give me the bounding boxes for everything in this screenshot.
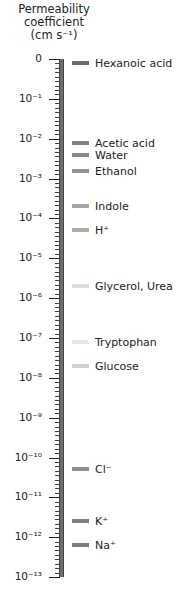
log-axis <box>47 59 67 577</box>
minor-tick <box>55 435 60 436</box>
minor-tick <box>55 125 60 126</box>
major-tick <box>49 577 60 578</box>
minor-tick <box>55 236 60 237</box>
minor-tick <box>55 475 60 476</box>
minor-tick <box>55 365 60 366</box>
marker-label: Tryptophan <box>95 335 157 348</box>
minor-tick <box>55 453 60 454</box>
minor-tick <box>55 267 60 268</box>
data-marker <box>72 467 89 471</box>
minor-tick <box>55 316 60 317</box>
data-marker <box>72 61 89 65</box>
minor-tick <box>55 280 60 281</box>
marker-label: Glycerol, Urea <box>95 280 173 293</box>
minor-tick <box>55 382 60 383</box>
minor-tick <box>55 94 60 95</box>
tick-label: 10⁻⁹ <box>19 411 42 423</box>
axis-bar <box>59 59 64 577</box>
minor-tick <box>55 156 60 157</box>
chart-title: Permeability coefficient (cm s⁻¹) <box>0 3 108 42</box>
title-line-3: (cm s⁻¹) <box>0 29 108 42</box>
minor-tick <box>55 511 60 512</box>
minor-tick <box>55 294 60 295</box>
minor-tick <box>55 440 60 441</box>
data-marker <box>72 141 89 145</box>
data-marker <box>72 284 89 288</box>
data-marker <box>72 169 89 173</box>
minor-tick <box>55 413 60 414</box>
minor-tick <box>55 289 60 290</box>
minor-tick <box>55 143 60 144</box>
minor-tick <box>55 201 60 202</box>
minor-tick <box>55 223 60 224</box>
minor-tick <box>55 404 60 405</box>
minor-tick <box>55 391 60 392</box>
minor-tick <box>55 573 60 574</box>
minor-tick <box>55 117 60 118</box>
minor-tick <box>55 170 60 171</box>
minor-tick <box>55 369 60 370</box>
tick-label: 10⁻⁷ <box>19 331 42 343</box>
minor-tick <box>55 263 60 264</box>
minor-tick <box>55 564 60 565</box>
minor-tick <box>55 559 60 560</box>
minor-tick <box>55 484 60 485</box>
minor-tick <box>55 528 60 529</box>
minor-tick <box>55 112 60 113</box>
minor-tick <box>55 444 60 445</box>
major-tick <box>49 139 60 140</box>
tick-label: 0 <box>35 52 42 64</box>
major-tick <box>49 298 60 299</box>
minor-tick <box>55 272 60 273</box>
minor-tick <box>55 515 60 516</box>
minor-tick <box>55 174 60 175</box>
minor-tick <box>55 249 60 250</box>
minor-tick <box>55 519 60 520</box>
tick-label: 10⁻¹¹ <box>15 491 42 503</box>
major-tick <box>49 218 60 219</box>
minor-tick <box>55 303 60 304</box>
data-marker <box>72 204 89 208</box>
minor-tick <box>55 431 60 432</box>
minor-tick <box>55 232 60 233</box>
major-tick <box>49 59 60 60</box>
minor-tick <box>55 187 60 188</box>
data-marker <box>72 543 89 547</box>
minor-tick <box>55 205 60 206</box>
minor-tick <box>55 90 60 91</box>
tick-label: 10⁻⁵ <box>19 252 42 264</box>
marker-label: Water <box>95 148 128 161</box>
minor-tick <box>55 546 60 547</box>
minor-tick <box>55 196 60 197</box>
marker-label: Glucose <box>95 359 139 372</box>
major-tick <box>49 378 60 379</box>
minor-tick <box>55 329 60 330</box>
major-tick <box>49 458 60 459</box>
minor-tick <box>55 506 60 507</box>
minor-tick <box>55 462 60 463</box>
minor-tick <box>55 276 60 277</box>
tick-label: 10⁻³ <box>19 172 42 184</box>
minor-tick <box>55 533 60 534</box>
data-marker <box>72 364 89 368</box>
minor-tick <box>55 550 60 551</box>
data-marker <box>72 519 89 523</box>
major-tick <box>49 338 60 339</box>
minor-tick <box>55 311 60 312</box>
tick-label: 10⁻² <box>19 132 42 144</box>
minor-tick <box>55 396 60 397</box>
minor-tick <box>55 210 60 211</box>
minor-tick <box>55 121 60 122</box>
minor-tick <box>55 555 60 556</box>
major-tick <box>49 179 60 180</box>
minor-tick <box>55 161 60 162</box>
major-tick <box>49 99 60 100</box>
minor-tick <box>55 427 60 428</box>
major-tick <box>49 418 60 419</box>
minor-tick <box>55 320 60 321</box>
minor-tick <box>55 373 60 374</box>
tick-label: 10⁻⁶ <box>19 291 42 303</box>
tick-label: 10⁻¹ <box>19 92 42 104</box>
minor-tick <box>55 63 60 64</box>
minor-tick <box>55 568 60 569</box>
